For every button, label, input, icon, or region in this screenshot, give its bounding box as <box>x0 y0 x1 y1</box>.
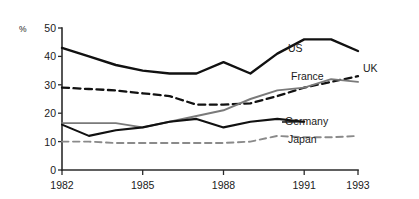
series-label-japan: Japan <box>288 133 317 145</box>
series-label-france: France <box>291 70 324 82</box>
series-line-germany <box>62 119 304 136</box>
y-tick-label-0: 0 <box>50 164 56 176</box>
y-tick-label-40: 40 <box>44 50 56 62</box>
y-tick-label-50: 50 <box>44 22 56 34</box>
chart-canvas: % 50 40 30 20 10 0 <box>0 0 419 199</box>
series-labels: US UK France Germany Japan <box>285 42 378 145</box>
x-tick-label-1985: 1985 <box>131 179 155 191</box>
y-tick-label-30: 30 <box>44 79 56 91</box>
x-axis-tick-labels: 1982 1985 1988 1991 1993 <box>50 179 370 191</box>
line-chart: % 50 40 30 20 10 0 <box>0 0 419 199</box>
y-axis-tick-labels: 50 40 30 20 10 0 <box>44 22 56 176</box>
y-axis-unit-label: % <box>19 24 27 34</box>
y-tick-label-10: 10 <box>44 136 56 148</box>
x-tick-label-1982: 1982 <box>50 179 74 191</box>
series-line-us <box>62 39 358 73</box>
series-label-germany: Germany <box>285 115 329 127</box>
y-tick-label-20: 20 <box>44 107 56 119</box>
series-label-uk: UK <box>363 62 378 74</box>
series-lines <box>62 39 358 143</box>
x-tick-label-1991: 1991 <box>293 179 317 191</box>
x-tick-label-1993: 1993 <box>346 179 370 191</box>
x-tick-label-1988: 1988 <box>212 179 236 191</box>
series-label-us: US <box>288 42 303 54</box>
